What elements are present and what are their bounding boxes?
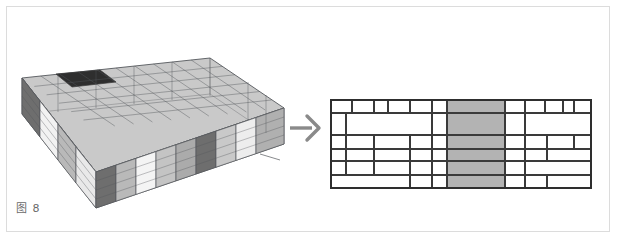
facade-cell [432,113,447,135]
transform-arrow [286,108,326,148]
figure-root: 图 8 [0,0,618,240]
facade-cell [505,113,525,135]
facade-cell [505,135,525,149]
facade-cell [505,149,525,161]
ground-line [260,154,280,160]
facade-cell [346,135,374,149]
facade-cell [525,175,547,189]
facade-cell [410,175,432,189]
facade-cell [374,99,388,113]
building-model-panel [8,12,288,212]
facade-cell-shaded [447,161,505,175]
facade-cell [410,149,432,161]
facade-cell [525,149,547,161]
building-model-svg [8,12,288,212]
facade-cell [574,99,592,113]
facade-cell [432,149,447,161]
facade-cell [547,149,592,161]
facade-cell [545,99,563,113]
facade-cell [525,113,592,135]
facade-cell [330,113,346,135]
facade-cell [374,161,410,175]
facade-cell [432,135,447,149]
facade-cell [547,175,592,189]
facade-cell [374,135,410,149]
facade-cell [574,135,592,149]
facade-cell [432,99,447,113]
right-arrow-icon [286,108,326,148]
facade-cell [525,135,547,149]
facade-cell [505,99,525,113]
facade-cell [330,175,410,189]
figure-caption: 图 8 [16,199,41,215]
facade-cell [346,149,374,161]
facade-cell-shaded [447,135,505,149]
facade-cell [432,175,447,189]
facade-cell [410,135,432,149]
facade-cell [505,175,525,189]
facade-cell [374,149,410,161]
facade-cell [525,161,592,175]
facade-cell-shaded [447,149,505,161]
facade-cell [410,99,432,113]
facade-cell [330,135,346,149]
facade-grid-svg [330,99,592,189]
facade-cell-shaded [447,175,505,189]
facade-grid-panel [330,99,592,189]
facade-cell [352,99,374,113]
facade-cell [505,161,525,175]
facade-cell [330,161,346,175]
facade-cell [346,161,374,175]
facade-cell [346,113,432,135]
facade-cell-shaded [447,99,505,113]
facade-cell-shaded [447,113,505,135]
facade-cell [330,149,346,161]
facade-cell [563,99,574,113]
facade-cell [330,99,352,113]
facade-cell [388,99,410,113]
facade-cell [547,135,574,149]
facade-cell [525,99,545,113]
facade-cell [410,161,432,175]
facade-cell [432,161,447,175]
